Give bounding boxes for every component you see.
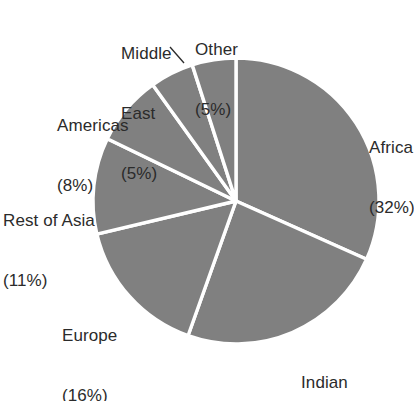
slice-label-rest-of-asia-percent: (11%) bbox=[3, 271, 95, 291]
slice-label-other: Other (5%) bbox=[195, 0, 238, 160]
pie-chart-figure: Africa (32%) Indian sub-continent (24%) … bbox=[0, 0, 414, 401]
slice-label-middle-east: Middle East (5%) bbox=[121, 4, 172, 224]
slice-label-middle-east-line1: Middle bbox=[121, 44, 172, 64]
slice-label-americas-name: Americas bbox=[57, 116, 129, 136]
slice-label-middle-east-percent: (5%) bbox=[121, 164, 172, 184]
slice-label-other-name: Other bbox=[195, 40, 238, 60]
slice-label-other-percent: (5%) bbox=[195, 100, 238, 120]
slice-label-indian-line1: Indian bbox=[301, 373, 404, 393]
middle-east-leader-line bbox=[170, 47, 184, 63]
slice-label-africa-name: Africa bbox=[369, 138, 414, 158]
slice-label-europe-percent: (16%) bbox=[62, 386, 117, 401]
slice-label-americas: Americas (8%) bbox=[57, 76, 129, 236]
slice-label-africa: Africa (32%) bbox=[369, 98, 414, 258]
slice-label-middle-east-line2: East bbox=[121, 104, 172, 124]
slice-label-africa-percent: (32%) bbox=[369, 198, 414, 218]
slice-label-indian-sub-continent: Indian sub-continent (24%) bbox=[301, 333, 404, 401]
slice-label-americas-percent: (8%) bbox=[57, 176, 129, 196]
